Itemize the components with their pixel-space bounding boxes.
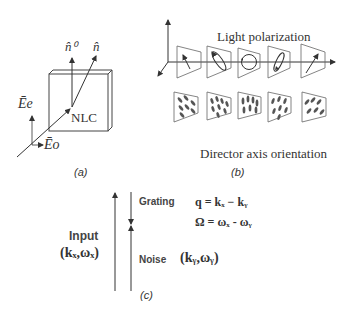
caption-a: (a)	[74, 166, 87, 178]
director-axis-title: Director axis orientation	[200, 146, 327, 162]
grating-label: Grating	[139, 196, 175, 207]
n-label: n̂	[93, 39, 100, 55]
caption-c: (c)	[140, 289, 153, 301]
light-polarization-title: Light polarization	[217, 29, 311, 45]
input-vector: (kₓ,ωₓ)	[60, 245, 99, 261]
linear-polarization-right-icon	[306, 54, 318, 73]
noise-label: Noise	[139, 254, 166, 265]
nlc-label: NLC	[71, 110, 97, 126]
n-arrow	[72, 56, 96, 107]
caption-b: (b)	[231, 166, 244, 178]
input-label: Input	[69, 229, 98, 243]
grating-q-formula: q = kₓ − kᵧ	[195, 195, 248, 210]
noise-vector: (kᵧ,ωᵧ)	[180, 250, 219, 266]
ee-label: Ēe	[18, 96, 33, 112]
director-molecules	[177, 95, 325, 121]
axis-diagonal	[158, 62, 168, 76]
grating-omega-formula: Ω = ωₓ - ωᵧ	[195, 215, 252, 230]
polarization-frames	[177, 44, 325, 78]
eo-label: Ēo	[44, 137, 60, 153]
n0-label: n̂⁰	[65, 39, 77, 55]
